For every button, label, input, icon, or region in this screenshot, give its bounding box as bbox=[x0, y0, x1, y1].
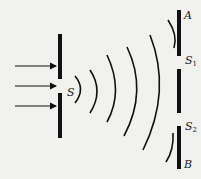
slit1-label: S1 bbox=[185, 54, 197, 68]
incident-arrows bbox=[15, 66, 56, 106]
single-slit-barrier bbox=[58, 34, 62, 138]
double-slit-diagram: S A S1 S2 B bbox=[0, 0, 201, 179]
double-slit-barrier bbox=[177, 10, 181, 169]
top-end-label: A bbox=[183, 9, 192, 22]
slit2-label: S2 bbox=[185, 120, 197, 134]
source-slit-label: S bbox=[67, 86, 75, 99]
wavefronts bbox=[75, 20, 175, 162]
bottom-end-label: B bbox=[183, 158, 192, 171]
